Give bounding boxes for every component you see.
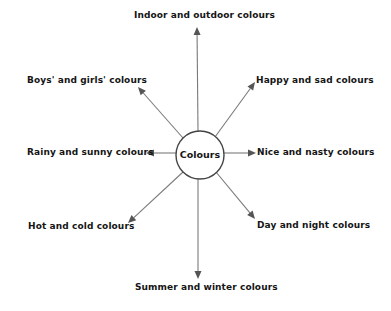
branch-label-summer-winter: Summer and winter colours <box>135 282 278 293</box>
branch-label-day-night: Day and night colours <box>257 220 370 231</box>
branch-label-nice-nasty: Nice and nasty colours <box>257 147 375 158</box>
arrowhead-icon <box>194 27 201 35</box>
arrow-line-lower-right <box>216 172 250 213</box>
arrow-line-top <box>197 35 198 131</box>
branch-label-indoor-outdoor: Indoor and outdoor colours <box>134 10 275 21</box>
branch-label-happy-sad: Happy and sad colours <box>256 75 374 86</box>
branch-label-rainy-sunny: Rainy and sunny colours <box>27 147 153 158</box>
arrow-line-upper-left <box>143 93 183 138</box>
branch-label-boys-girls: Boys' and girls' colours <box>27 75 147 86</box>
arrowhead-icon <box>248 150 256 157</box>
arrow-line-upper-right <box>215 88 250 137</box>
arrowhead-icon <box>195 271 202 279</box>
colours-spider-diagram: Colours Indoor and outdoor colours Boys'… <box>0 0 391 311</box>
arrow-line-lower-left <box>134 172 183 218</box>
branch-label-hot-cold: Hot and cold colours <box>28 221 134 232</box>
arrowhead-icon <box>247 82 255 91</box>
center-label: Colours <box>180 149 220 161</box>
